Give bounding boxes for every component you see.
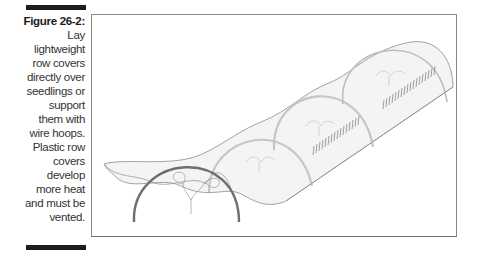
caption-line: and must be xyxy=(25,197,85,209)
caption-line: directly over xyxy=(27,71,85,83)
caption-line: lightweight xyxy=(34,43,85,55)
figure-label: Figure 26-2: xyxy=(8,14,85,28)
figure-caption: Figure 26-2: Lay lightweight row covers … xyxy=(8,14,85,224)
caption-line: develop xyxy=(47,169,85,181)
caption-line: support xyxy=(49,99,85,111)
caption-line: Plastic row xyxy=(33,141,85,153)
caption-line: vented. xyxy=(49,211,85,223)
caption-line: more heat xyxy=(36,183,85,195)
caption-line: row covers xyxy=(32,57,85,69)
caption-line: Lay xyxy=(67,29,85,41)
row-cover-illustration xyxy=(91,14,457,237)
caption-line: them with xyxy=(38,113,85,125)
caption-line: covers xyxy=(53,155,85,167)
caption-line: seedlings or xyxy=(27,85,85,97)
caption-top-rule xyxy=(26,5,86,10)
caption-line: wire hoops. xyxy=(29,127,85,139)
caption-bottom-rule xyxy=(26,245,86,250)
